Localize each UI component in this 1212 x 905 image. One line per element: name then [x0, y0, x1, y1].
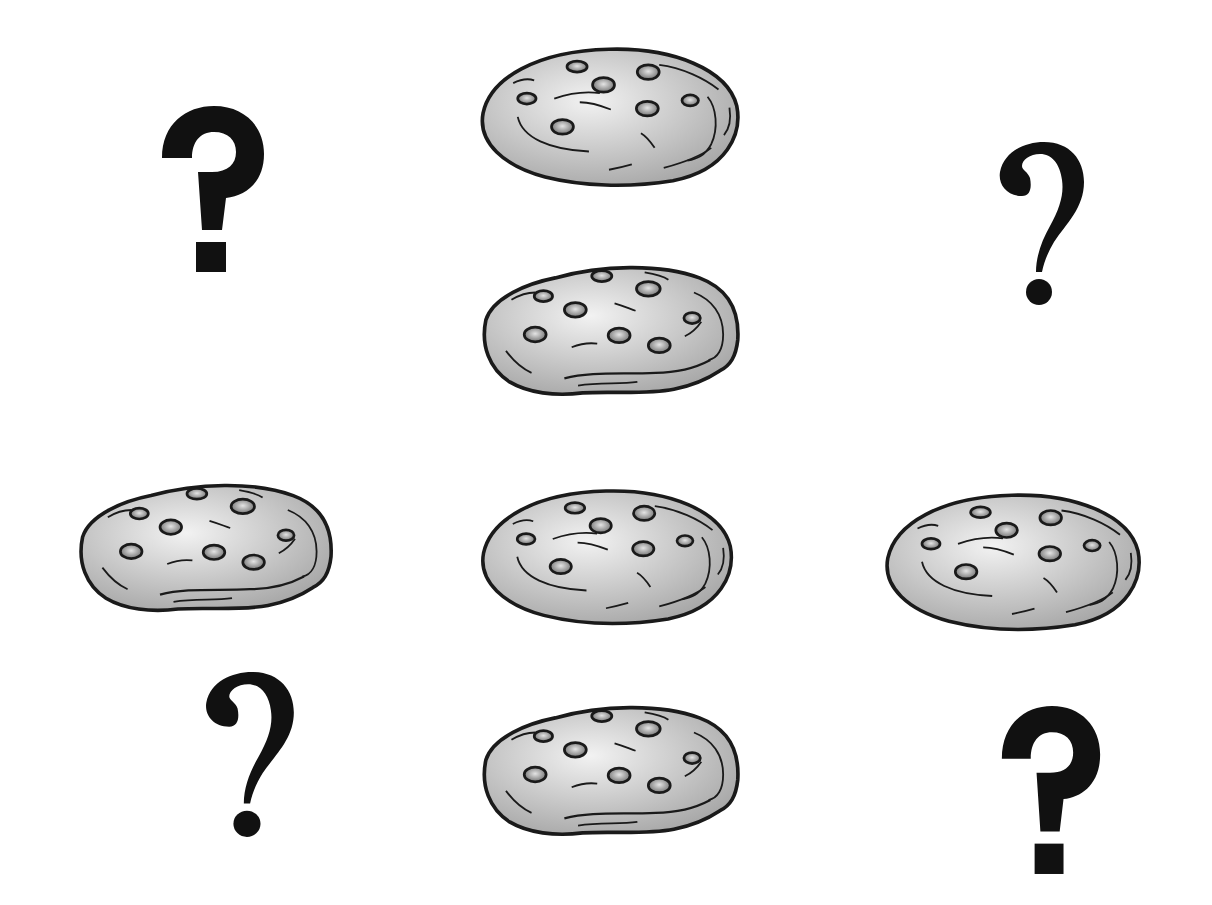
cookie-icon [872, 488, 1152, 632]
cookie-lumpy-row3-left [66, 474, 344, 618]
question-mark-top-left: ? [158, 102, 268, 274]
question-mark-bottom-right: ? [998, 702, 1104, 876]
cookie-smooth-top [468, 42, 750, 188]
cookie-lumpy-bottom [470, 696, 750, 842]
cookie-icon [468, 42, 750, 188]
cookie-smooth-row3-center [466, 484, 746, 626]
question-mark-top-right: ? [992, 138, 1088, 308]
cookie-icon [470, 696, 750, 842]
question-mark-bottom-left: ? [198, 668, 298, 840]
cookie-lumpy-second [470, 256, 750, 402]
cookie-icon [66, 474, 344, 618]
cookie-icon [470, 256, 750, 402]
cookie-icon [466, 484, 746, 626]
cookie-smooth-row3-right [872, 488, 1152, 632]
